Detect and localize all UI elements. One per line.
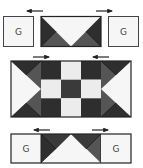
g-label: G xyxy=(120,27,127,37)
g-label: G xyxy=(113,144,120,154)
g-square-top-right: G xyxy=(109,17,139,47)
g-square-bottom-left: G xyxy=(11,134,41,163)
flying-geese-right xyxy=(11,61,41,117)
flying-geese-down xyxy=(41,17,101,47)
top-row: G G xyxy=(4,11,139,47)
middle-row xyxy=(11,57,131,117)
nine-patch xyxy=(41,61,101,117)
g-square-top-left: G xyxy=(4,17,34,47)
g-label: G xyxy=(23,144,30,154)
bottom-row: G G xyxy=(11,130,131,163)
g-square-bottom-right: G xyxy=(101,134,131,163)
flying-geese-up xyxy=(41,134,101,163)
flying-geese-left xyxy=(101,61,131,117)
g-label: G xyxy=(15,27,22,37)
quilt-assembly-diagram: G G xyxy=(0,0,143,168)
